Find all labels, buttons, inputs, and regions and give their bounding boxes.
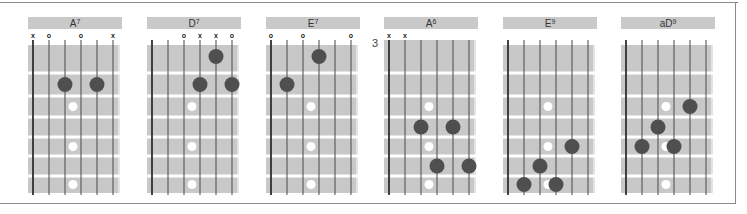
fret-line [28, 72, 120, 75]
fret-line [621, 155, 713, 158]
finger-position-dot [193, 77, 208, 92]
fretboard: oxxo [147, 0, 247, 214]
fret-line [503, 116, 595, 119]
fret-line [147, 116, 239, 119]
fret-line [503, 95, 595, 98]
fretboard: xx [384, 0, 484, 214]
fret-line [384, 95, 476, 98]
finger-position-dot [58, 77, 73, 92]
fret-line [28, 95, 120, 98]
finger-position-dot [414, 120, 429, 135]
muted-string-marker: x [31, 32, 35, 39]
fret-line [147, 136, 239, 139]
chord-diagram-e7: E7 ooo [266, 0, 366, 214]
fret-inlay-dot [662, 180, 671, 189]
fret-line [503, 72, 595, 75]
fret-line [384, 116, 476, 119]
nut [503, 40, 595, 45]
fret-inlay-dot [544, 102, 553, 111]
finger-position-dot [462, 159, 477, 174]
fret-line [266, 116, 358, 119]
open-string-marker: o [349, 32, 353, 39]
finger-position-dot [517, 177, 532, 192]
open-string-marker: o [182, 32, 186, 39]
fret-line [503, 155, 595, 158]
nut [266, 40, 358, 45]
fret-line [503, 175, 595, 178]
open-string-marker: o [269, 32, 273, 39]
nut [147, 40, 239, 45]
fret-line [28, 136, 120, 139]
fret-inlay-dot [307, 142, 316, 151]
finger-position-dot [225, 77, 240, 92]
fret-line [503, 136, 595, 139]
fret-line [621, 175, 713, 178]
fret-line [28, 155, 120, 158]
fret-line [621, 136, 713, 139]
fret-inlay-dot [188, 180, 197, 189]
open-string-marker: o [47, 32, 51, 39]
finger-position-dot [90, 77, 105, 92]
start-fret-label: 3 [372, 37, 378, 49]
fretboard [503, 0, 603, 214]
fret-inlay-dot [425, 102, 434, 111]
fret-inlay-dot [544, 142, 553, 151]
fret-line [266, 95, 358, 98]
fret-line [621, 95, 713, 98]
fret-inlay-dot [307, 102, 316, 111]
finger-position-dot [683, 99, 698, 114]
fret-line [384, 72, 476, 75]
finger-position-dot [446, 120, 461, 135]
chord-diagram-ad9: aD9 [621, 0, 721, 214]
fret-line [384, 175, 476, 178]
muted-string-marker: x [198, 32, 202, 39]
nut [621, 40, 713, 45]
open-string-marker: o [79, 32, 83, 39]
finger-position-dot [209, 49, 224, 64]
muted-string-marker: x [111, 32, 115, 39]
finger-position-dot [533, 159, 548, 174]
fret-inlay-dot [662, 102, 671, 111]
finger-position-dot [565, 139, 580, 154]
chord-diagram-a7: A7 xoox [28, 0, 128, 214]
fret-line [621, 72, 713, 75]
finger-position-dot [667, 139, 682, 154]
fret-line [147, 95, 239, 98]
fret-line [147, 155, 239, 158]
fret-line [147, 175, 239, 178]
fret-inlay-dot [69, 180, 78, 189]
finger-position-dot [312, 49, 327, 64]
fret-line [266, 175, 358, 178]
fret-inlay-dot [307, 180, 316, 189]
open-string-marker: o [301, 32, 305, 39]
chord-diagram-a6: A6 3 xx [384, 0, 484, 214]
finger-position-dot [280, 77, 295, 92]
open-string-marker: o [230, 32, 234, 39]
chord-diagram-e9: E9 [503, 0, 603, 214]
fret-line [28, 116, 120, 119]
muted-string-marker: x [387, 32, 391, 39]
fret-line [147, 72, 239, 75]
finger-position-dot [651, 120, 666, 135]
fret-line [266, 72, 358, 75]
muted-string-marker: x [214, 32, 218, 39]
fretboard [621, 0, 721, 214]
fret-line [266, 155, 358, 158]
fret-inlay-dot [188, 102, 197, 111]
fret-line [384, 136, 476, 139]
fretboard: ooo [266, 0, 366, 214]
fret-inlay-dot [69, 142, 78, 151]
fret-inlay-dot [425, 142, 434, 151]
chord-diagram-d7: D7 oxxo [147, 0, 247, 214]
fret-line [266, 136, 358, 139]
nut [28, 40, 120, 45]
fretboard: xoox [28, 0, 128, 214]
fret-inlay-dot [188, 142, 197, 151]
finger-position-dot [549, 177, 564, 192]
fret-inlay-dot [425, 180, 434, 189]
finger-position-dot [430, 159, 445, 174]
fret-line [621, 116, 713, 119]
fret-line [384, 155, 476, 158]
muted-string-marker: x [403, 32, 407, 39]
finger-position-dot [635, 139, 650, 154]
